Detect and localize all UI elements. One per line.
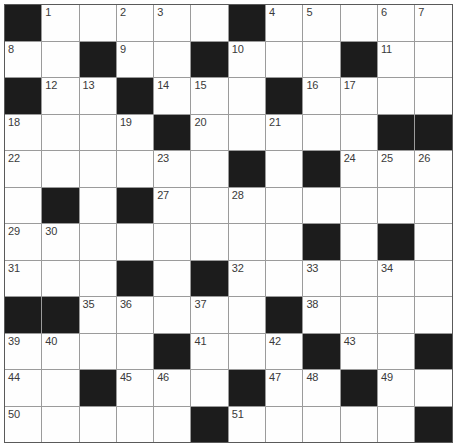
white-square[interactable] xyxy=(80,115,116,151)
white-square[interactable] xyxy=(341,407,377,443)
white-square[interactable] xyxy=(117,224,153,260)
white-square[interactable] xyxy=(303,407,339,443)
white-square[interactable]: 45 xyxy=(117,370,153,406)
white-square[interactable] xyxy=(303,115,339,151)
white-square[interactable] xyxy=(378,407,414,443)
white-square[interactable] xyxy=(415,224,451,260)
white-square[interactable] xyxy=(229,334,265,370)
white-square[interactable] xyxy=(341,188,377,224)
white-square[interactable] xyxy=(229,78,265,114)
white-square[interactable] xyxy=(341,115,377,151)
white-square[interactable]: 40 xyxy=(42,334,78,370)
white-square[interactable] xyxy=(80,151,116,187)
white-square[interactable] xyxy=(191,151,227,187)
white-square[interactable]: 48 xyxy=(303,370,339,406)
white-square[interactable] xyxy=(80,407,116,443)
white-square[interactable]: 49 xyxy=(378,370,414,406)
white-square[interactable] xyxy=(229,297,265,333)
white-square[interactable]: 27 xyxy=(154,188,190,224)
white-square[interactable] xyxy=(266,407,302,443)
white-square[interactable] xyxy=(266,151,302,187)
white-square[interactable]: 23 xyxy=(154,151,190,187)
white-square[interactable] xyxy=(154,297,190,333)
white-square[interactable] xyxy=(191,370,227,406)
white-square[interactable] xyxy=(415,261,451,297)
white-square[interactable]: 50 xyxy=(5,407,41,443)
white-square[interactable] xyxy=(117,407,153,443)
white-square[interactable]: 46 xyxy=(154,370,190,406)
white-square[interactable]: 13 xyxy=(80,78,116,114)
white-square[interactable]: 21 xyxy=(266,115,302,151)
white-square[interactable] xyxy=(42,42,78,78)
white-square[interactable]: 51 xyxy=(229,407,265,443)
white-square[interactable] xyxy=(42,407,78,443)
white-square[interactable] xyxy=(154,42,190,78)
white-square[interactable]: 41 xyxy=(191,334,227,370)
white-square[interactable] xyxy=(191,224,227,260)
white-square[interactable]: 37 xyxy=(191,297,227,333)
white-square[interactable]: 4 xyxy=(266,5,302,41)
white-square[interactable]: 5 xyxy=(303,5,339,41)
white-square[interactable]: 7 xyxy=(415,5,451,41)
white-square[interactable]: 30 xyxy=(42,224,78,260)
white-square[interactable]: 31 xyxy=(5,261,41,297)
white-square[interactable] xyxy=(415,297,451,333)
white-square[interactable] xyxy=(80,334,116,370)
white-square[interactable] xyxy=(80,224,116,260)
white-square[interactable] xyxy=(303,42,339,78)
white-square[interactable] xyxy=(341,5,377,41)
white-square[interactable] xyxy=(415,78,451,114)
white-square[interactable]: 19 xyxy=(117,115,153,151)
white-square[interactable] xyxy=(303,188,339,224)
white-square[interactable] xyxy=(42,151,78,187)
white-square[interactable] xyxy=(80,5,116,41)
white-square[interactable] xyxy=(378,297,414,333)
white-square[interactable] xyxy=(341,297,377,333)
white-square[interactable] xyxy=(117,151,153,187)
white-square[interactable] xyxy=(229,224,265,260)
white-square[interactable]: 43 xyxy=(341,334,377,370)
white-square[interactable] xyxy=(117,334,153,370)
white-square[interactable] xyxy=(341,261,377,297)
white-square[interactable] xyxy=(154,407,190,443)
white-square[interactable] xyxy=(191,188,227,224)
white-square[interactable]: 24 xyxy=(341,151,377,187)
white-square[interactable] xyxy=(5,188,41,224)
white-square[interactable] xyxy=(341,224,377,260)
white-square[interactable]: 32 xyxy=(229,261,265,297)
white-square[interactable]: 29 xyxy=(5,224,41,260)
white-square[interactable]: 12 xyxy=(42,78,78,114)
white-square[interactable] xyxy=(266,42,302,78)
white-square[interactable] xyxy=(42,370,78,406)
white-square[interactable]: 6 xyxy=(378,5,414,41)
white-square[interactable] xyxy=(378,334,414,370)
white-square[interactable] xyxy=(266,261,302,297)
white-square[interactable]: 8 xyxy=(5,42,41,78)
white-square[interactable]: 42 xyxy=(266,334,302,370)
white-square[interactable] xyxy=(42,115,78,151)
white-square[interactable]: 10 xyxy=(229,42,265,78)
white-square[interactable] xyxy=(266,188,302,224)
white-square[interactable] xyxy=(154,224,190,260)
white-square[interactable]: 22 xyxy=(5,151,41,187)
white-square[interactable] xyxy=(229,115,265,151)
white-square[interactable]: 1 xyxy=(42,5,78,41)
white-square[interactable]: 16 xyxy=(303,78,339,114)
white-square[interactable] xyxy=(266,224,302,260)
white-square[interactable]: 3 xyxy=(154,5,190,41)
white-square[interactable]: 18 xyxy=(5,115,41,151)
white-square[interactable]: 20 xyxy=(191,115,227,151)
white-square[interactable]: 33 xyxy=(303,261,339,297)
white-square[interactable]: 38 xyxy=(303,297,339,333)
white-square[interactable] xyxy=(154,261,190,297)
white-square[interactable]: 2 xyxy=(117,5,153,41)
white-square[interactable]: 28 xyxy=(229,188,265,224)
white-square[interactable]: 25 xyxy=(378,151,414,187)
white-square[interactable] xyxy=(415,42,451,78)
white-square[interactable]: 35 xyxy=(80,297,116,333)
white-square[interactable] xyxy=(80,188,116,224)
white-square[interactable]: 9 xyxy=(117,42,153,78)
white-square[interactable]: 39 xyxy=(5,334,41,370)
white-square[interactable]: 11 xyxy=(378,42,414,78)
white-square[interactable]: 17 xyxy=(341,78,377,114)
